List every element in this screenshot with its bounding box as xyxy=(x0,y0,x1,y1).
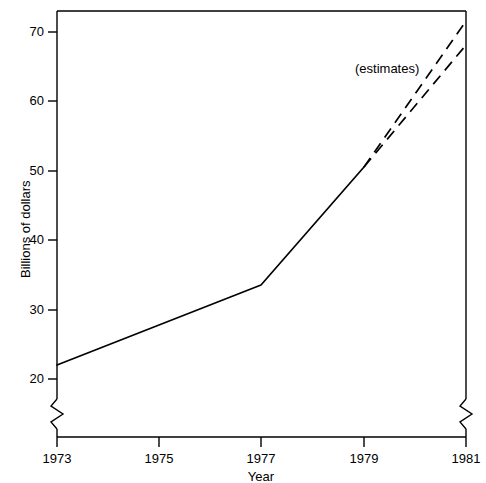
y-tick-label-50: 50 xyxy=(8,164,44,177)
y-axis-ticks xyxy=(48,32,57,379)
series-estimate-high-line xyxy=(364,21,466,167)
y-axis-title: Billions of dollars xyxy=(19,180,32,278)
series-actual-line xyxy=(57,167,364,365)
y-tick-label-60: 60 xyxy=(8,94,44,107)
estimates-annotation: (estimates) xyxy=(355,62,419,75)
y-axis-right-break-zigzag xyxy=(460,399,472,429)
y-tick-label-70: 70 xyxy=(8,25,44,38)
line-chart: 70 60 50 40 30 20 1973 1975 1977 1979 19… xyxy=(0,0,486,483)
x-axis-ticks xyxy=(57,437,466,447)
x-axis-title: Year xyxy=(229,470,293,483)
x-tick-label-1979: 1979 xyxy=(332,452,396,465)
x-tick-label-1973: 1973 xyxy=(25,452,89,465)
x-tick-label-1981: 1981 xyxy=(434,452,486,465)
x-tick-label-1975: 1975 xyxy=(127,452,191,465)
x-tick-label-1977: 1977 xyxy=(229,452,293,465)
y-axis-left-break-zigzag xyxy=(51,399,63,429)
y-tick-label-20: 20 xyxy=(8,372,44,385)
y-tick-label-30: 30 xyxy=(8,303,44,316)
